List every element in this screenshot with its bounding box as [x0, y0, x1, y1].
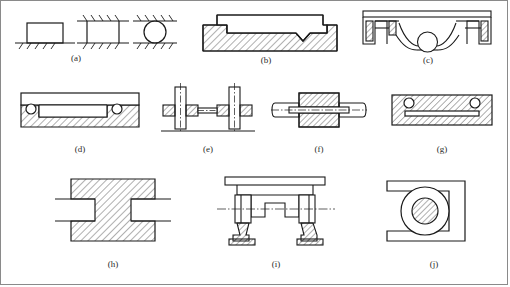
circle-left-g: [404, 98, 414, 108]
top-plate-c: [363, 11, 491, 17]
caption-j: (j): [419, 259, 449, 269]
inner-recess-d: [39, 105, 107, 117]
collar-outer-right: [240, 105, 252, 116]
panel-j: [379, 175, 489, 247]
hatched-rib-inner-left: [389, 21, 396, 35]
ground-hatch-2-bottom: [83, 43, 119, 49]
hatched-body-h: [71, 179, 155, 241]
panel-j-drawing: [379, 175, 489, 247]
panel-f: [269, 85, 369, 135]
hatched-rib-left: [366, 21, 373, 41]
caption-i: (i): [261, 259, 291, 269]
collar-inner-right: [217, 105, 229, 116]
hatched-block-top-f: [299, 93, 339, 107]
panel-i: [211, 173, 341, 251]
cover-plate-d: [21, 93, 139, 105]
rectangle-block: [27, 23, 63, 43]
stepped-member-i: [251, 195, 299, 217]
panel-g-drawing: [387, 89, 497, 131]
foot-right-i: [301, 223, 317, 241]
ground-hatch-2-top: [83, 15, 119, 21]
panel-c-drawing: [353, 6, 503, 54]
foot-left-i: [233, 223, 249, 241]
panel-e-drawing: [159, 81, 257, 137]
hanger-left-i: [237, 185, 251, 195]
panel-d-drawing: [15, 85, 145, 133]
caption-h: (h): [98, 259, 128, 269]
panel-b: [197, 7, 343, 53]
panel-g: [387, 89, 497, 131]
top-beam-i: [225, 177, 325, 185]
ball-c: [418, 32, 438, 52]
ground-hatch-1: [19, 43, 55, 49]
ball-right-d: [112, 104, 122, 114]
ball-left-d: [26, 104, 36, 114]
panel-d: [15, 85, 145, 133]
hatched-rib-right: [481, 21, 488, 41]
panel-h: [49, 173, 177, 247]
foot-base-right-i: [297, 239, 323, 245]
caption-f: (f): [304, 144, 334, 154]
ground-hatch-3-bottom: [137, 43, 173, 49]
panel-e: [159, 81, 257, 137]
inner-plate-g: [405, 111, 479, 116]
hanger-right-i: [299, 185, 313, 195]
inner-circle-j: [412, 198, 438, 224]
panel-c: [353, 6, 503, 54]
caption-e: (e): [193, 144, 223, 154]
caption-g: (g): [427, 144, 457, 154]
ground-hatch-3-top: [137, 15, 173, 21]
collar-inner-left: [186, 105, 198, 116]
caption-c: (c): [413, 55, 443, 65]
foot-base-left-i: [229, 239, 255, 245]
panel-a: [9, 7, 179, 53]
figure-frame: (a): [0, 0, 508, 285]
hatched-block-bottom-f: [299, 113, 339, 127]
collar-outer-left: [163, 105, 175, 116]
panel-h-drawing: [49, 173, 177, 247]
circle-element: [144, 21, 166, 43]
panel-i-drawing: [211, 173, 341, 251]
panel-b-drawing: [197, 7, 343, 53]
caption-d: (d): [65, 144, 95, 154]
panel-f-drawing: [269, 85, 369, 135]
caption-a: (a): [61, 53, 91, 63]
caption-b: (b): [251, 55, 281, 65]
circle-right-g: [470, 98, 480, 108]
panel-a-drawing: [9, 7, 179, 53]
